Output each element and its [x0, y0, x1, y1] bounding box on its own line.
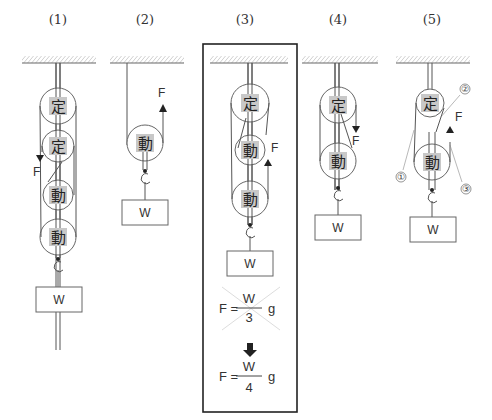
panel-label: (3)	[236, 12, 254, 27]
ceiling-hatch	[22, 56, 96, 63]
equation-wrong: F = W 3 g	[219, 287, 280, 330]
panel-4: (4) 定 動 F W	[302, 12, 378, 240]
svg-text:F =: F =	[219, 369, 238, 384]
svg-text:g: g	[268, 301, 275, 316]
down-arrow-icon	[243, 343, 257, 357]
hook-icon	[428, 193, 437, 203]
panel-label: (4)	[329, 12, 347, 27]
moving-label: 動	[51, 187, 66, 205]
equation-correct: F = W 4 g	[219, 359, 275, 395]
panel-1: (1) 定 定 動 動 F W	[22, 12, 96, 350]
force-arrow-down-icon	[36, 155, 44, 162]
force-arrow-down-icon	[352, 126, 360, 133]
weight-label: W	[427, 223, 439, 237]
fixed-label: 定	[51, 98, 66, 116]
fixed-label: 定	[331, 97, 346, 115]
pulley-diagram: (1) 定 定 動 動 F W	[0, 0, 492, 420]
moving-label: 動	[243, 142, 258, 160]
force-label: F	[455, 110, 462, 124]
weight-label: W	[244, 257, 256, 271]
panel-2: (2) F 動 W	[110, 12, 184, 225]
panel-5: (5) 定 動 F ① ② ③ W	[396, 12, 471, 242]
callout-1: ①	[397, 172, 405, 182]
moving-label: 動	[51, 229, 66, 247]
force-label: F	[33, 165, 40, 179]
fixed-label: 定	[243, 95, 258, 113]
svg-text:W: W	[243, 291, 256, 306]
weight-label: W	[332, 221, 344, 235]
force-arrow-up-icon	[159, 104, 167, 112]
hook-icon	[141, 174, 150, 184]
moving-label: 動	[425, 154, 440, 172]
callout-2: ②	[461, 84, 469, 94]
fixed-label: 定	[51, 138, 66, 156]
force-arrow-up-icon	[264, 159, 272, 166]
force-label: F	[352, 134, 359, 148]
weight-label: W	[53, 293, 65, 307]
moving-label: 動	[243, 191, 258, 209]
hook-icon	[334, 191, 343, 201]
hook-icon	[246, 228, 255, 238]
panel-label: (2)	[136, 12, 154, 27]
force-label: F	[271, 141, 278, 155]
panel-label: (5)	[423, 12, 441, 27]
svg-text:4: 4	[245, 380, 252, 395]
force-label: F	[158, 86, 165, 100]
svg-text:3: 3	[245, 310, 252, 325]
panel-label: (1)	[49, 12, 67, 27]
svg-text:F =: F =	[219, 301, 238, 316]
moving-label: 動	[331, 153, 346, 171]
svg-text:W: W	[243, 359, 256, 374]
svg-text:g: g	[268, 369, 275, 384]
force-arrow-up-icon	[446, 126, 454, 133]
moving-label: 動	[138, 135, 153, 153]
weight-label: W	[139, 206, 151, 220]
fixed-label: 定	[423, 95, 438, 113]
panel-3: (3) 定 動 動 F W F = W	[203, 12, 297, 412]
callout-3: ③	[462, 184, 470, 194]
